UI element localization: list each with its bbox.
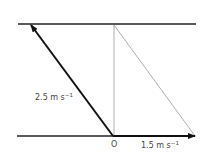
resultant-velocity-label: 2.5 m s−1	[35, 92, 73, 102]
origin-label: O	[111, 140, 117, 149]
diagonal-line	[114, 25, 195, 136]
resultant-velocity-arrow	[31, 25, 113, 136]
river-velocity-label: 1.5 m s−1	[141, 140, 179, 150]
